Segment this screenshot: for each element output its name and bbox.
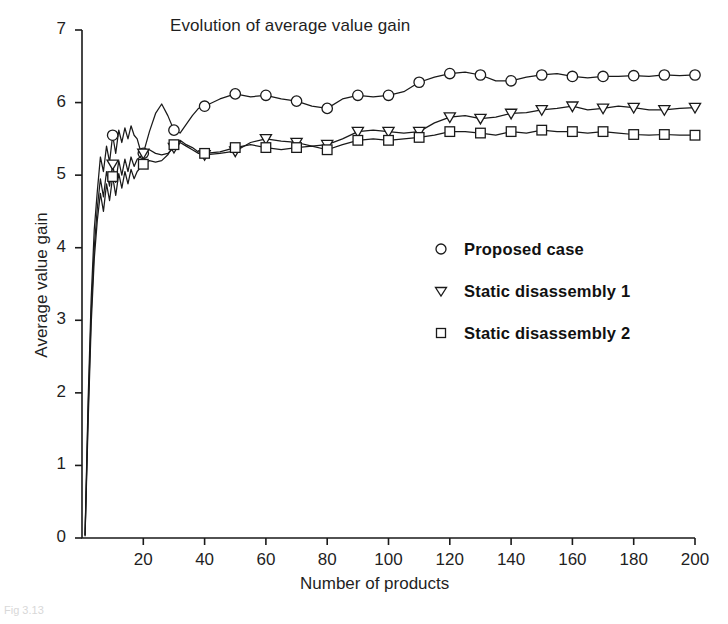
y-tick-label: 0 <box>42 527 66 547</box>
x-tick-label: 160 <box>549 550 595 570</box>
square-marker-icon <box>418 323 464 343</box>
y-tick-label: 6 <box>42 92 66 112</box>
y-tick-label: 7 <box>42 19 66 39</box>
x-tick-label: 180 <box>611 550 657 570</box>
legend-item-proposed-case: Proposed case <box>418 228 630 270</box>
x-tick-label: 140 <box>488 550 534 570</box>
chart-legend: Proposed case Static disassembly 1 Stati… <box>418 228 630 354</box>
chart-title: Evolution of average value gain <box>170 16 410 36</box>
legend-label: Static disassembly 1 <box>464 282 630 301</box>
y-tick-label: 3 <box>42 309 66 329</box>
y-tick-label: 2 <box>42 382 66 402</box>
legend-label: Static disassembly 2 <box>464 324 630 343</box>
legend-item-static-disassembly-2: Static disassembly 2 <box>418 312 630 354</box>
y-tick-label: 4 <box>42 237 66 257</box>
legend-label: Proposed case <box>464 240 584 259</box>
legend-item-static-disassembly-1: Static disassembly 1 <box>418 270 630 312</box>
figure-container: Evolution of average value gain Average … <box>0 0 728 624</box>
circle-marker-icon <box>418 239 464 259</box>
x-tick-label: 40 <box>182 550 228 570</box>
x-tick-label: 200 <box>672 550 718 570</box>
triangle-down-marker-icon <box>418 281 464 301</box>
caption-fragment: Fig 3.13 <box>4 604 44 616</box>
x-tick-label: 120 <box>427 550 473 570</box>
y-tick-label: 1 <box>42 454 66 474</box>
x-axis-label: Number of products <box>300 574 449 594</box>
x-tick-label: 60 <box>243 550 289 570</box>
x-tick-label: 100 <box>366 550 412 570</box>
y-axis-label: Average value gain <box>32 175 52 395</box>
x-tick-label: 80 <box>304 550 350 570</box>
y-tick-label: 5 <box>42 164 66 184</box>
x-tick-label: 20 <box>120 550 166 570</box>
